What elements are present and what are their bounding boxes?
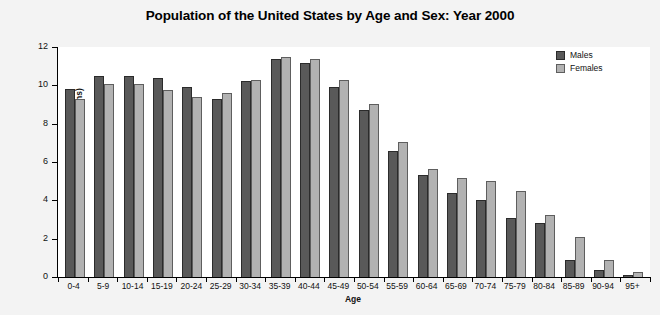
bar-group bbox=[383, 47, 412, 277]
bar-females-75-79[interactable] bbox=[516, 191, 526, 277]
bar-females-20-24[interactable] bbox=[192, 97, 202, 277]
bar-group bbox=[619, 47, 648, 277]
bar-males-50-54[interactable] bbox=[359, 110, 369, 277]
bar-group bbox=[472, 47, 501, 277]
legend-label: Females bbox=[570, 63, 603, 73]
bar-males-30-34[interactable] bbox=[241, 81, 251, 277]
bar-males-5-9[interactable] bbox=[94, 76, 104, 277]
x-axis-tick bbox=[650, 277, 651, 282]
x-axis-tick-labels: 0-45-910-1415-1920-2425-2930-3435-3940-4… bbox=[57, 281, 649, 291]
bar-group bbox=[589, 47, 618, 277]
y-axis-tick-label: 2 bbox=[43, 233, 48, 243]
x-axis-tick-label: 70-74 bbox=[471, 281, 500, 291]
bar-group bbox=[119, 47, 148, 277]
legend-item-females[interactable]: Females bbox=[556, 63, 603, 73]
bar-group bbox=[89, 47, 118, 277]
bar-males-70-74[interactable] bbox=[476, 200, 486, 277]
x-axis-tick-label: 30-34 bbox=[235, 281, 264, 291]
bar-group bbox=[207, 47, 236, 277]
bar-females-45-49[interactable] bbox=[339, 80, 349, 277]
y-axis-tick-label: 10 bbox=[38, 79, 48, 89]
x-axis-tick-label: 80-84 bbox=[530, 281, 559, 291]
x-axis-tick-label: 85-89 bbox=[559, 281, 588, 291]
chart-legend: MalesFemales bbox=[556, 50, 603, 76]
bar-males-60-64[interactable] bbox=[418, 175, 428, 277]
bar-females-25-29[interactable] bbox=[222, 93, 232, 277]
y-axis-tick-label: 0 bbox=[43, 271, 48, 281]
bar-males-65-69[interactable] bbox=[447, 193, 457, 277]
bar-group bbox=[236, 47, 265, 277]
bar-group bbox=[295, 47, 324, 277]
y-axis-tick-label: 12 bbox=[38, 41, 48, 51]
bar-females-95+[interactable] bbox=[633, 272, 643, 277]
bar-females-90-94[interactable] bbox=[604, 260, 614, 277]
y-axis-tick-label: 4 bbox=[43, 194, 48, 204]
bar-females-60-64[interactable] bbox=[428, 169, 438, 277]
bar-females-30-34[interactable] bbox=[251, 80, 261, 277]
bar-males-55-59[interactable] bbox=[388, 151, 398, 278]
bar-series-container bbox=[58, 47, 650, 277]
bar-females-50-54[interactable] bbox=[369, 104, 379, 277]
x-axis-tick-label: 45-49 bbox=[324, 281, 353, 291]
x-axis-tick-label: 55-59 bbox=[382, 281, 411, 291]
x-axis-tick-label: 95+ bbox=[618, 281, 647, 291]
bar-females-15-19[interactable] bbox=[163, 90, 173, 277]
x-axis-tick-label: 75-79 bbox=[500, 281, 529, 291]
x-axis-tick-label: 65-69 bbox=[441, 281, 470, 291]
x-axis-label: Age bbox=[57, 294, 649, 304]
bar-group bbox=[178, 47, 207, 277]
y-axis-tick-label: 6 bbox=[43, 156, 48, 166]
bar-females-65-69[interactable] bbox=[457, 178, 467, 277]
x-axis-tick-label: 0-4 bbox=[59, 281, 88, 291]
x-axis-tick-label: 20-24 bbox=[177, 281, 206, 291]
bar-males-80-84[interactable] bbox=[535, 223, 545, 277]
bar-females-70-74[interactable] bbox=[486, 181, 496, 277]
x-axis-tick-label: 10-14 bbox=[118, 281, 147, 291]
bar-males-40-44[interactable] bbox=[300, 63, 310, 277]
bar-group bbox=[148, 47, 177, 277]
bar-males-15-19[interactable] bbox=[153, 78, 163, 277]
female-swatch-icon bbox=[556, 64, 565, 73]
x-axis-tick-label: 35-39 bbox=[265, 281, 294, 291]
y-axis-tick-label: 8 bbox=[43, 118, 48, 128]
bar-females-10-14[interactable] bbox=[134, 84, 144, 277]
bar-females-55-59[interactable] bbox=[398, 142, 408, 277]
bar-group bbox=[531, 47, 560, 277]
bar-females-0-4[interactable] bbox=[75, 99, 85, 277]
bar-group bbox=[266, 47, 295, 277]
legend-label: Males bbox=[570, 50, 593, 60]
male-swatch-icon bbox=[556, 51, 565, 60]
bar-males-35-39[interactable] bbox=[271, 59, 281, 277]
bar-males-25-29[interactable] bbox=[212, 99, 222, 277]
bar-males-0-4[interactable] bbox=[65, 89, 75, 277]
bar-males-20-24[interactable] bbox=[182, 87, 192, 277]
x-axis-tick-label: 15-19 bbox=[147, 281, 176, 291]
bar-group bbox=[325, 47, 354, 277]
bar-group bbox=[413, 47, 442, 277]
legend-item-males[interactable]: Males bbox=[556, 50, 603, 60]
bar-group bbox=[560, 47, 589, 277]
x-axis-tick-label: 40-44 bbox=[294, 281, 323, 291]
x-axis-tick-label: 60-64 bbox=[412, 281, 441, 291]
bar-females-85-89[interactable] bbox=[575, 237, 585, 277]
bar-males-85-89[interactable] bbox=[565, 260, 575, 277]
x-axis-tick-label: 50-54 bbox=[353, 281, 382, 291]
x-axis-tick-label: 25-29 bbox=[206, 281, 235, 291]
chart-title: Population of the United States by Age a… bbox=[0, 8, 660, 23]
plot-area: Population (Millions) 024681012 bbox=[57, 47, 650, 278]
bar-females-35-39[interactable] bbox=[281, 57, 291, 277]
bar-males-75-79[interactable] bbox=[506, 218, 516, 277]
bar-males-90-94[interactable] bbox=[594, 270, 604, 277]
bar-females-80-84[interactable] bbox=[545, 215, 555, 277]
bar-males-10-14[interactable] bbox=[124, 76, 134, 277]
bar-males-45-49[interactable] bbox=[329, 87, 339, 277]
bar-females-5-9[interactable] bbox=[104, 84, 114, 277]
chart-figure: Population of the United States by Age a… bbox=[0, 0, 660, 315]
bar-group bbox=[442, 47, 471, 277]
bar-males-95+[interactable] bbox=[623, 275, 633, 277]
bar-group bbox=[60, 47, 89, 277]
x-axis-tick-label: 5-9 bbox=[88, 281, 117, 291]
bar-group bbox=[501, 47, 530, 277]
x-axis-tick-label: 90-94 bbox=[588, 281, 617, 291]
bar-females-40-44[interactable] bbox=[310, 59, 320, 278]
